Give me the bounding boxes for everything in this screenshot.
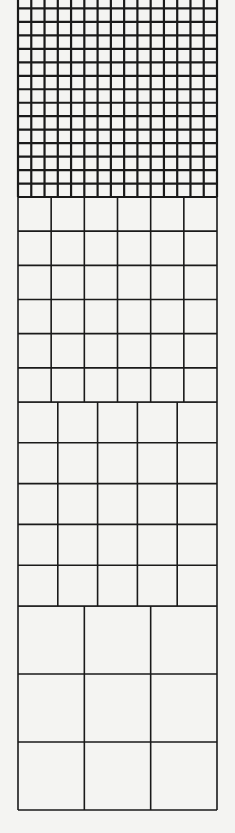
grid-3x3 — [0, 606, 235, 812]
grid-15x15 — [0, 0, 235, 199]
grid-5x5 — [0, 402, 235, 608]
grid-6x6 — [0, 197, 235, 404]
